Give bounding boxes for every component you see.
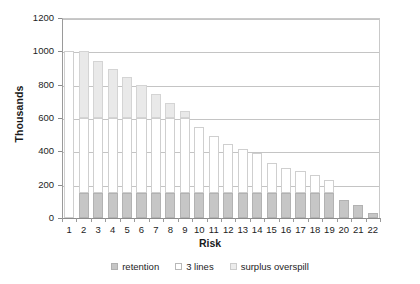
x-axis-label: 20 — [337, 224, 351, 235]
stacked-bar[interactable] — [194, 18, 204, 218]
x-axis-label: 9 — [178, 224, 192, 235]
bar-segment-3-lines — [151, 118, 161, 193]
x-axis-tick — [76, 218, 77, 222]
x-axis-tick — [149, 218, 150, 222]
bar-segment-retention — [252, 193, 262, 218]
bar-segment-retention — [324, 193, 334, 218]
stacked-bar[interactable] — [151, 18, 161, 218]
bar-segment-surplus-overspill — [151, 94, 161, 118]
legend-label: retention — [122, 261, 159, 272]
legend-item-retention[interactable]: retention — [111, 261, 159, 272]
y-axis-label: 200 — [0, 179, 54, 190]
bar-segment-3-lines — [267, 163, 277, 193]
x-axis-label: 22 — [366, 224, 380, 235]
bar-segment-3-lines — [295, 171, 305, 194]
bar-segment-retention — [209, 193, 219, 218]
chart-legend: retention3 linessurplus overspill — [0, 261, 420, 272]
x-axis-label: 1 — [62, 224, 76, 235]
stacked-bar[interactable] — [281, 18, 291, 218]
x-axis-tick — [163, 218, 164, 222]
bar-segment-retention — [79, 193, 89, 218]
y-axis-label: 800 — [0, 79, 54, 90]
stacked-bar[interactable] — [295, 18, 305, 218]
bar-segment-retention — [238, 193, 248, 218]
bar-segment-3-lines — [93, 118, 103, 193]
x-axis-tick — [366, 218, 367, 222]
stacked-bar[interactable] — [238, 18, 248, 218]
bar-slot — [250, 18, 264, 218]
legend-item-3-lines[interactable]: 3 lines — [175, 261, 213, 272]
y-axis-label: 600 — [0, 112, 54, 123]
stacked-bar[interactable] — [108, 18, 118, 218]
x-axis-title: Risk — [0, 237, 420, 249]
bar-segment-3-lines — [136, 118, 146, 193]
bar-segment-retention — [136, 193, 146, 218]
bar-segment-retention — [310, 193, 320, 218]
x-axis-tick — [380, 218, 381, 222]
stacked-bar[interactable] — [64, 18, 74, 218]
stacked-bar[interactable] — [93, 18, 103, 218]
x-axis-tick — [221, 218, 222, 222]
bar-slot — [207, 18, 221, 218]
x-axis-tick — [178, 218, 179, 222]
x-axis-label: 16 — [279, 224, 293, 235]
x-axis-label: 2 — [76, 224, 90, 235]
stacked-bar[interactable] — [353, 18, 363, 218]
stacked-bar[interactable] — [209, 18, 219, 218]
x-axis-tick — [264, 218, 265, 222]
bar-segment-retention — [151, 193, 161, 218]
y-axis-label: 1200 — [0, 12, 54, 23]
y-axis-label: 0 — [0, 212, 54, 223]
x-axis-tick — [308, 218, 309, 222]
x-axis-label: 6 — [134, 224, 148, 235]
stacked-bar[interactable] — [223, 18, 233, 218]
bar-slot — [91, 18, 105, 218]
x-axis-label: 8 — [163, 224, 177, 235]
bar-segment-retention — [180, 193, 190, 218]
bar-segment-3-lines — [108, 118, 118, 193]
bar-segment-3-lines — [64, 51, 74, 218]
stacked-bar[interactable] — [368, 18, 378, 218]
stacked-bar[interactable] — [136, 18, 146, 218]
bar-segment-retention — [223, 193, 233, 218]
x-axis-label: 5 — [120, 224, 134, 235]
x-axis-tick — [337, 218, 338, 222]
bar-segment-retention — [165, 193, 175, 218]
bar-segment-surplus-overspill — [79, 51, 89, 118]
stacked-bar[interactable] — [252, 18, 262, 218]
bar-slot — [279, 18, 293, 218]
x-axis-label: 17 — [293, 224, 307, 235]
x-axis-tick — [235, 218, 236, 222]
stacked-bar[interactable] — [267, 18, 277, 218]
bar-segment-3-lines — [79, 118, 89, 193]
stacked-bar[interactable] — [79, 18, 89, 218]
bar-slot — [76, 18, 90, 218]
stacked-bar[interactable] — [310, 18, 320, 218]
bar-segment-3-lines — [238, 149, 248, 193]
stacked-bar[interactable] — [180, 18, 190, 218]
bar-slot — [105, 18, 119, 218]
bar-segment-retention — [295, 193, 305, 218]
stacked-bar[interactable] — [324, 18, 334, 218]
stacked-bar[interactable] — [122, 18, 132, 218]
bar-segment-3-lines — [281, 168, 291, 193]
stacked-bar[interactable] — [339, 18, 349, 218]
x-axis-tick — [322, 218, 323, 222]
legend-item-surplus-overspill[interactable]: surplus overspill — [230, 261, 309, 272]
x-axis-label: 15 — [264, 224, 278, 235]
x-axis-tick — [207, 218, 208, 222]
stacked-bar[interactable] — [165, 18, 175, 218]
stacked-bar-chart: Thousands 020040060080010001200 12345678… — [0, 0, 420, 284]
bar-segment-3-lines — [194, 127, 204, 193]
lines-swatch-icon — [175, 263, 182, 270]
x-axis-tick — [105, 218, 106, 222]
x-axis-tick — [351, 218, 352, 222]
x-axis-tick — [91, 218, 92, 222]
bar-segment-3-lines — [209, 136, 219, 193]
x-axis-label: 21 — [351, 224, 365, 235]
bar-segment-surplus-overspill — [122, 77, 132, 118]
bar-slot — [351, 18, 365, 218]
bar-segment-retention — [281, 193, 291, 218]
bar-slot — [235, 18, 249, 218]
bar-slot — [192, 18, 206, 218]
